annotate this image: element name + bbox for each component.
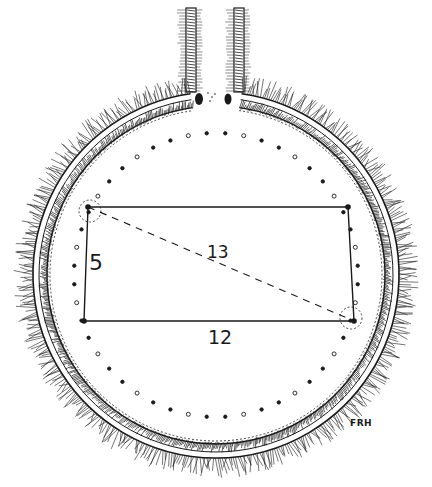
diagonal-label-13: 13 bbox=[207, 244, 229, 261]
side-label-12: 12 bbox=[208, 328, 232, 347]
artist-signature: FRH bbox=[350, 419, 372, 428]
side-label-5: 5 bbox=[89, 252, 103, 274]
enclosure-diagram: 5 13 12 FRH bbox=[0, 0, 432, 487]
entrance-posts bbox=[177, 8, 251, 105]
rectangle-12x5 bbox=[79, 200, 362, 329]
posthole-ring bbox=[73, 132, 360, 419]
